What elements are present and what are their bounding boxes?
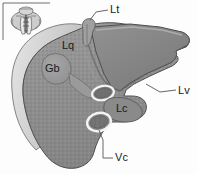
label-vc: Vc: [115, 152, 128, 163]
liver-diagram-svg: [0, 0, 197, 174]
label-lq: Lq: [62, 40, 74, 51]
leader-lv: [146, 84, 176, 92]
label-gb: Gb: [45, 63, 60, 74]
figure-canvas: Lt Lv Vc Lq Gb Lc: [0, 0, 197, 174]
label-lc: Lc: [116, 103, 128, 114]
label-lv: Lv: [178, 85, 190, 96]
leader-vc: [99, 130, 113, 158]
label-lt: Lt: [110, 4, 120, 15]
leader-lt: [90, 10, 108, 20]
